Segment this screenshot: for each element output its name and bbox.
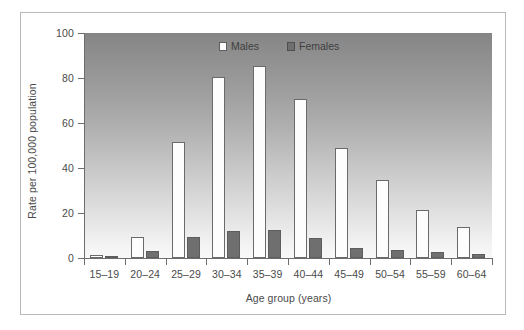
x-axis-tick <box>410 259 411 265</box>
females-swatch-icon <box>287 42 295 51</box>
y-axis-tick <box>78 168 84 169</box>
bar-females <box>268 230 281 258</box>
bar-males <box>212 77 225 258</box>
x-axis-tick <box>206 259 207 265</box>
y-axis-tick <box>78 78 84 79</box>
bar-males <box>335 148 348 258</box>
y-axis-tick-label: 60 <box>44 118 74 129</box>
y-axis-tick-label-text: 40 <box>44 163 74 174</box>
figure-root: 020406080100 Rate per 100,000 population… <box>0 0 524 330</box>
bar-males <box>90 255 103 258</box>
y-axis-line <box>84 33 85 259</box>
legend-label-females: Females <box>299 41 339 52</box>
x-axis-tick <box>329 259 330 265</box>
y-axis-tick-label-text: 80 <box>44 73 74 84</box>
chart-legend: Males Females <box>219 41 339 52</box>
bar-females <box>105 256 118 258</box>
bar-males <box>457 227 470 259</box>
bar-females <box>146 251 159 258</box>
bar-males <box>253 66 266 258</box>
bar-females <box>227 231 240 258</box>
bar-males <box>416 210 429 258</box>
x-axis-tick-label: 60–64 <box>447 268 497 280</box>
x-axis-tick <box>288 259 289 265</box>
bar-females <box>431 252 444 258</box>
bar-males <box>172 142 185 258</box>
y-axis-tick-label-text: 60 <box>44 118 74 129</box>
bar-females <box>187 237 200 258</box>
males-swatch-icon <box>219 42 227 51</box>
y-axis-tick-label-text: 20 <box>44 208 74 219</box>
y-axis-tick <box>78 33 84 34</box>
legend-label-males: Males <box>231 41 259 52</box>
y-axis-tick-label: 100 <box>44 28 74 39</box>
y-axis-tick-label: 0 <box>44 253 74 264</box>
y-axis-tick-label-text: 0 <box>44 253 74 264</box>
bar-males <box>294 99 307 258</box>
x-axis-tick <box>451 259 452 265</box>
x-axis-tick <box>166 259 167 265</box>
y-axis-tick-label-text: 100 <box>44 28 74 39</box>
y-axis-title: Rate per 100,000 population <box>26 56 38 246</box>
bar-males <box>376 180 389 258</box>
bar-females <box>472 254 485 259</box>
x-axis-tick <box>370 259 371 265</box>
y-axis-tick <box>78 123 84 124</box>
legend-item-males: Males <box>219 41 259 52</box>
legend-item-females: Females <box>287 41 339 52</box>
x-axis-tick <box>84 259 85 265</box>
x-axis-tick <box>492 259 493 265</box>
y-axis-tick-label: 40 <box>44 163 74 174</box>
x-axis-tick <box>247 259 248 265</box>
bar-males <box>131 237 144 258</box>
plot-area <box>84 33 492 258</box>
y-axis-tick <box>78 213 84 214</box>
y-axis-tick-label: 20 <box>44 208 74 219</box>
x-axis-tick <box>125 259 126 265</box>
bar-females <box>350 248 363 258</box>
y-axis-tick-label: 80 <box>44 73 74 84</box>
bar-females <box>391 250 404 258</box>
bar-females <box>309 238 322 258</box>
x-axis-title: Age group (years) <box>84 292 493 304</box>
